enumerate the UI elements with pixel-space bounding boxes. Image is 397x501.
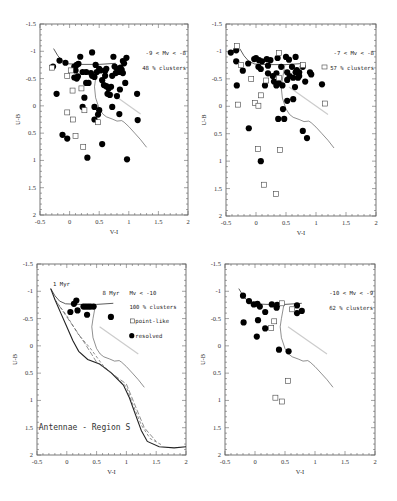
x-tick-label: -0.5 (221, 219, 231, 226)
x-tick-label: 1.5 (154, 218, 162, 225)
chart-panel-top-right: -0.500.511.52-1.5-1-0.500.511.52V-IU-B-7… (196, 16, 386, 248)
age-label-8myr: 8 Myr (103, 290, 120, 297)
x-tick-label: 1 (125, 458, 128, 465)
data-point-point-like (280, 399, 285, 404)
magnitude-range-label: -10 < Mv < -9 (329, 290, 373, 296)
data-point-point-like (96, 120, 101, 125)
y-axis-title: U-B (11, 353, 18, 365)
y-tick-label: -0.5 (23, 315, 33, 322)
y-tick-label: 0 (218, 342, 221, 349)
magnitude-range-label: Mv < -10 (129, 290, 156, 296)
data-point-point-like (261, 182, 266, 187)
data-point-point-like (71, 117, 76, 122)
data-point-resolved (273, 82, 279, 88)
data-point-resolved (254, 333, 260, 339)
data-point-resolved (134, 91, 140, 97)
data-point-point-like (68, 68, 73, 73)
x-tick-label: 0.5 (95, 218, 103, 225)
legend-circle-icon (129, 333, 134, 338)
data-point-resolved (240, 68, 246, 74)
y-tick-label: 2 (218, 451, 221, 458)
x-tick-label: 2 (374, 219, 377, 226)
data-point-point-like (269, 325, 274, 330)
data-point-point-like (73, 133, 78, 138)
data-point-resolved (319, 81, 325, 87)
y-tick-label: 0.5 (25, 369, 33, 376)
x-tick-label: -0.5 (220, 458, 230, 465)
data-point-resolved (262, 325, 268, 331)
data-point-point-like (273, 395, 278, 400)
data-point-point-like (272, 319, 277, 324)
cluster-percent-label: 57 % clusters (330, 65, 374, 71)
x-tick-label: -0.5 (32, 458, 42, 465)
data-point-resolved (275, 116, 281, 122)
data-point-resolved (116, 111, 122, 117)
data-point-resolved (107, 92, 113, 98)
data-point-resolved (293, 54, 299, 60)
y-tick-label: 2 (30, 451, 33, 458)
data-point-point-like (264, 78, 269, 83)
chart-panel-top-left: -0.500.511.52-1.5-1-0.500.511.52V-IU-B-9… (10, 16, 198, 247)
data-point-resolved (286, 348, 292, 354)
y-tick-label: -0.5 (211, 315, 221, 322)
region-label: Antennae - Region S (39, 423, 131, 432)
data-point-resolved (278, 64, 284, 70)
data-point-resolved (74, 307, 80, 313)
x-tick-label: 1.5 (341, 458, 349, 465)
x-axis-title: V-I (297, 229, 305, 236)
x-tick-label: -0.5 (35, 218, 45, 225)
data-point-resolved (99, 141, 105, 147)
data-point-resolved (308, 71, 314, 77)
y-axis-title: U-B (14, 113, 21, 125)
y-tick-label: -0.5 (212, 75, 222, 82)
x-tick-label: 1.5 (152, 458, 160, 465)
y-tick-label: -0.5 (26, 75, 36, 82)
x-tick-label: 1 (314, 219, 317, 226)
y-tick-label: 0.5 (213, 369, 221, 376)
data-point-resolved (83, 69, 89, 75)
data-point-point-like (256, 103, 261, 108)
y-tick-label: 0.5 (214, 130, 222, 137)
data-point-resolved (267, 57, 273, 63)
data-point-resolved (240, 293, 246, 299)
data-point-resolved (290, 96, 296, 102)
y-tick-label: 1.5 (213, 424, 221, 431)
point-like-square-icon (322, 65, 327, 69)
cluster-percent-label: 62 % clusters (329, 305, 373, 311)
chart-panel-bottom-left: -0.500.511.52-1.5-1-0.500.511.52V-IU-B1 … (7, 256, 196, 487)
series-resolved (67, 297, 114, 320)
x-tick-label: 2 (373, 458, 376, 465)
data-point-resolved (284, 98, 290, 104)
data-point-resolved (110, 54, 116, 60)
x-tick-label: 0 (253, 458, 256, 465)
data-point-point-like (300, 63, 305, 68)
data-point-point-like (258, 93, 263, 98)
data-point-resolved (300, 128, 306, 134)
data-point-resolved (123, 55, 129, 61)
y-tick-label: -1 (31, 47, 36, 54)
y-tick-label: -1 (216, 287, 221, 294)
data-point-point-like (280, 301, 285, 306)
data-point-resolved (124, 156, 130, 162)
legend-label-point-like: point-like (135, 318, 169, 325)
data-point-resolved (53, 91, 59, 97)
x-tick-label: 0.5 (281, 458, 289, 465)
y-tick-label: 1.5 (25, 424, 33, 431)
data-point-resolved (286, 57, 292, 63)
data-point-resolved (84, 155, 90, 161)
data-point-resolved (103, 66, 109, 72)
data-point-resolved (228, 49, 234, 55)
y-tick-label: 0 (33, 102, 36, 109)
y-tick-label: -1.5 (26, 20, 36, 27)
x-tick-label: 1 (313, 458, 316, 465)
data-point-resolved (114, 93, 120, 99)
data-point-resolved (67, 309, 73, 315)
data-point-point-like (236, 102, 241, 107)
data-point-point-like (70, 88, 75, 93)
data-point-resolved (73, 297, 79, 303)
data-point-point-like (79, 86, 84, 91)
y-tick-label: 1 (218, 396, 221, 403)
data-point-resolved (279, 82, 285, 88)
x-tick-label: 0 (254, 219, 257, 226)
y-tick-label: -1 (217, 47, 222, 54)
